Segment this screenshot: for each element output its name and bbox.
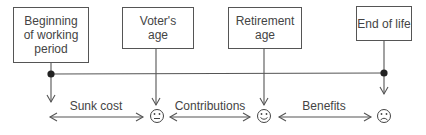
beginning-of-working-period-box: Beginning of working period bbox=[13, 7, 89, 63]
voters-age-box: Voter's age bbox=[122, 7, 194, 49]
box-line: period bbox=[24, 42, 79, 56]
sunk-cost-label: Sunk cost bbox=[70, 99, 123, 113]
contributions-label: Contributions bbox=[175, 99, 246, 113]
retirement-age-box: Retirement age bbox=[228, 7, 302, 49]
sad-face-icon bbox=[378, 110, 391, 123]
box-line: End of life bbox=[357, 17, 410, 31]
box-line: Beginning bbox=[24, 14, 79, 28]
box-line: age bbox=[140, 28, 176, 42]
benefits-label: Benefits bbox=[302, 99, 345, 113]
box-line: age bbox=[236, 28, 295, 42]
end-dot bbox=[380, 69, 387, 76]
box-line: Retirement bbox=[236, 14, 295, 28]
end-of-life-box: End of life bbox=[356, 6, 412, 41]
beginning-dot bbox=[47, 70, 54, 77]
timeline-axis bbox=[51, 73, 384, 74]
neutral-face-icon bbox=[151, 110, 164, 123]
box-line: of working bbox=[24, 28, 79, 42]
smiling-face-icon bbox=[258, 110, 271, 123]
box-line: Voter's bbox=[140, 14, 176, 28]
